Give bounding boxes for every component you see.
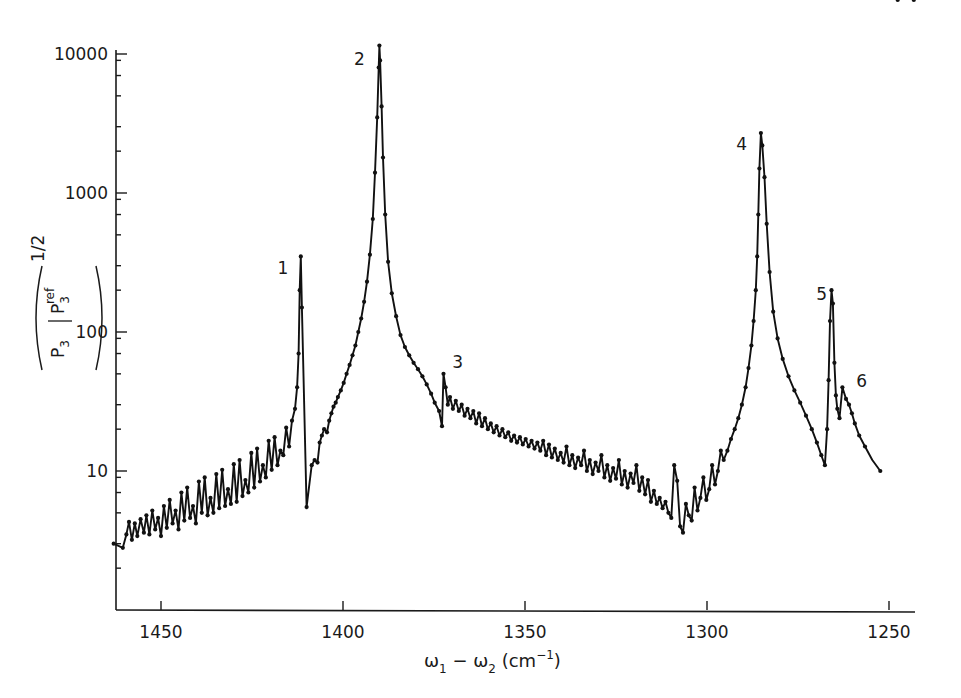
data-point: [342, 381, 346, 385]
data-point: [394, 314, 398, 318]
data-point: [130, 538, 134, 542]
data-point: [512, 433, 516, 437]
x-axis-line: [116, 610, 915, 612]
peak-label-2: 2: [354, 49, 365, 69]
data-point: [420, 374, 424, 378]
data-point: [127, 520, 131, 524]
data-point: [310, 463, 314, 467]
data-point: [147, 532, 151, 536]
data-point: [437, 409, 441, 413]
peak-label-3: 3: [452, 352, 463, 372]
data-point: [675, 479, 679, 483]
data-point: [383, 212, 387, 216]
data-point: [585, 469, 589, 473]
data-point: [823, 463, 827, 467]
data-point: [194, 521, 198, 525]
data-point: [229, 502, 233, 506]
data-point: [339, 388, 343, 392]
data-point: [327, 419, 331, 423]
left-paren: [36, 266, 42, 370]
data-point: [407, 353, 411, 357]
ylabel-numerator: P3: [48, 340, 72, 358]
data-point: [497, 433, 501, 437]
data-point: [246, 490, 250, 494]
plot-area: [112, 0, 916, 550]
data-point: [652, 489, 656, 493]
data-point: [386, 260, 390, 264]
data-point: [320, 433, 324, 437]
data-point: [515, 441, 519, 445]
data-point: [278, 449, 282, 453]
data-point: [756, 212, 760, 216]
data-point: [322, 427, 326, 431]
data-point: [336, 395, 340, 399]
data-point: [433, 401, 437, 405]
data-point: [722, 458, 726, 462]
data-point: [471, 409, 475, 413]
data-point: [150, 508, 154, 512]
data-point: [634, 463, 638, 467]
data-point: [252, 486, 256, 490]
ylabel-exponent: 1/2: [28, 235, 48, 262]
data-point: [235, 500, 239, 504]
x-tick-label: 1350: [503, 622, 546, 642]
data-point: [290, 419, 294, 423]
data-point: [365, 280, 369, 284]
data-point: [840, 385, 844, 389]
data-point: [300, 305, 304, 309]
data-point: [591, 472, 595, 476]
data-point: [896, 0, 900, 2]
data-point: [480, 424, 484, 428]
data-point: [287, 444, 291, 448]
data-point: [655, 502, 659, 506]
data-point: [626, 486, 630, 490]
data-point: [669, 516, 673, 520]
data-point: [325, 430, 329, 434]
data-point: [197, 479, 201, 483]
data-point: [827, 378, 831, 382]
data-point: [762, 175, 766, 179]
data-point: [226, 487, 230, 491]
data-point: [649, 500, 653, 504]
data-point: [345, 372, 349, 376]
data-point: [746, 366, 750, 370]
data-point: [444, 385, 448, 389]
data-point: [217, 506, 221, 510]
data-point: [174, 508, 178, 512]
peak-label-1: 1: [278, 258, 289, 278]
data-point: [153, 527, 157, 531]
data-point: [719, 449, 723, 453]
data-point: [693, 486, 697, 490]
data-point: [768, 270, 772, 274]
data-point: [878, 469, 882, 473]
data-point: [725, 449, 729, 453]
x-tick-label: 1450: [139, 622, 182, 642]
data-point: [295, 385, 299, 389]
data-point: [380, 104, 384, 108]
data-point: [156, 516, 160, 520]
data-point: [733, 427, 737, 431]
data-point: [527, 444, 531, 448]
data-point: [362, 300, 366, 304]
data-point: [524, 437, 528, 441]
data-point: [518, 435, 522, 439]
data-point: [605, 463, 609, 467]
peak-label-6: 6: [856, 371, 867, 391]
data-point: [663, 500, 667, 504]
data-point: [567, 463, 571, 467]
data-point: [810, 427, 814, 431]
data-point: [220, 468, 224, 472]
data-point: [179, 490, 183, 494]
data-point: [825, 427, 829, 431]
data-point: [191, 504, 195, 508]
data-point: [736, 416, 740, 420]
data-point: [815, 441, 819, 445]
data-point: [270, 468, 274, 472]
data-point: [837, 416, 841, 420]
data-point: [752, 319, 756, 323]
data-point: [792, 388, 796, 392]
data-point: [666, 511, 670, 515]
data-point: [124, 532, 128, 536]
peak-label-5: 5: [816, 284, 827, 304]
data-point: [620, 482, 624, 486]
